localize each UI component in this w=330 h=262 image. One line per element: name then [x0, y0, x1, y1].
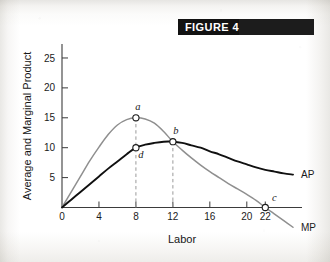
droplines [136, 118, 173, 208]
y-tick-label: 15 [44, 112, 56, 123]
y-axis-ticks [62, 58, 68, 178]
series-label-mp: MP [301, 222, 316, 233]
chart-area: 510152025 04812162022 adbc APMP Labor Av… [0, 0, 330, 262]
y-tick-label: 10 [44, 142, 56, 153]
x-tick-label: 16 [204, 211, 216, 222]
series-end-labels: APMP [301, 169, 316, 233]
x-tick-label: 8 [133, 211, 139, 222]
x-tick-label: 0 [59, 211, 65, 222]
annotation-markers [133, 115, 269, 211]
x-tick-label: 12 [167, 211, 179, 222]
annotation-label-a: a [135, 101, 140, 112]
y-tick-label: 25 [44, 53, 56, 64]
y-tick-label: 5 [49, 172, 55, 183]
annotation-label-d: d [138, 149, 144, 160]
annotation-point-c [262, 204, 268, 210]
x-axis-title: Labor [168, 233, 196, 245]
x-tick-label: 20 [241, 211, 253, 222]
x-tick-label: 4 [96, 211, 102, 222]
x-tick-label: 22 [260, 211, 272, 222]
annotation-point-a [133, 115, 139, 121]
series-label-ap: AP [301, 169, 315, 180]
axes [62, 44, 302, 208]
y-axis-tick-labels: 510152025 [44, 53, 56, 184]
annotation-marker-labels: adbc [135, 101, 277, 203]
y-tick-label: 20 [44, 82, 56, 93]
figure-root: FIGURE 4 510152025 04812162022 adbc [0, 0, 330, 262]
x-axis-ticks [99, 202, 265, 208]
average-and-marginal-product-chart: 510152025 04812162022 adbc APMP Labor Av… [0, 0, 330, 262]
annotation-label-b: b [173, 125, 178, 136]
annotation-label-c: c [272, 192, 277, 203]
x-axis-tick-labels: 04812162022 [59, 211, 271, 222]
y-axis-title: Average and Marginal Product [21, 52, 33, 200]
annotation-point-b [170, 139, 176, 145]
